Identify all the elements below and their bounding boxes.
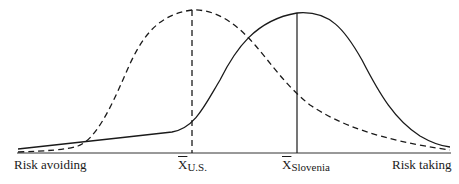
mean-symbol: X — [282, 157, 291, 172]
mean-subscript: U.S. — [187, 161, 207, 173]
us-distribution-curve — [18, 10, 450, 152]
mean-symbol: X — [178, 157, 187, 172]
risk-taking-label: Risk taking — [392, 158, 452, 172]
mean-subscript: Slovenia — [291, 161, 330, 173]
slovenia-distribution-curve — [18, 13, 450, 149]
risk-avoiding-label: Risk avoiding — [14, 158, 87, 172]
slovenia-mean-label: XSlovenia — [282, 158, 330, 172]
us-mean-label: XU.S. — [178, 158, 207, 172]
